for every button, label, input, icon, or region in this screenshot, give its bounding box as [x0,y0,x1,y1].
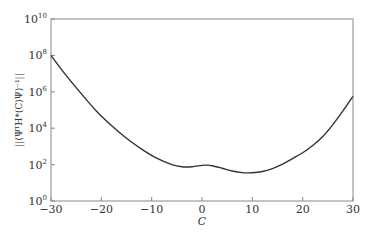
x-axis-ticks: −30−20−100102030 [39,197,360,216]
x-tick-label: −20 [90,203,113,216]
y-tick-label: 108 [29,48,47,62]
y-tick-label: 104 [29,121,48,135]
x-tick-label: −30 [39,203,62,216]
y-tick-label: 1010 [24,12,47,26]
y-tick-label: 106 [29,85,48,99]
y-tick-label: 102 [29,158,47,172]
series-group [51,55,353,172]
x-axis-label: C [198,215,207,228]
series-line-norm [51,55,353,172]
x-tick-label: 20 [296,203,310,216]
chart: −30−20−100102030 1001021041061081010 C |… [0,0,371,234]
x-tick-label: 10 [245,203,259,216]
x-tick-label: 30 [346,203,360,216]
y-axis-ticks: 1001021041061081010 [24,12,55,208]
x-tick-label: −10 [140,203,163,216]
y-axis-label: ||(ΨᵀH*(C)Ψ)⁻¹|| [14,73,25,146]
